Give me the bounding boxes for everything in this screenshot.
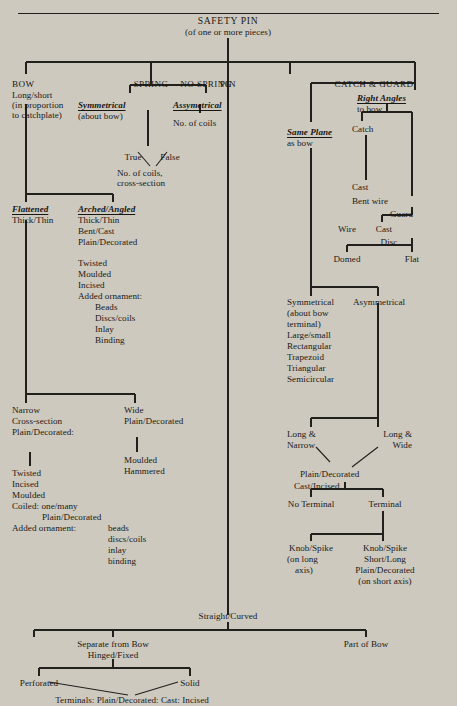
node-bow: BOW [12, 79, 34, 90]
wide-line-1: Plain/Decorated [124, 416, 183, 427]
knob-spike-left-2: (on long [287, 554, 318, 565]
node-guard: Guard [390, 209, 413, 220]
narrow-line-3: Twisted [12, 468, 41, 479]
narrow-line-1: Cross-section [12, 416, 62, 427]
node-flat: Flat [405, 254, 419, 265]
root-subtitle: (of one or more pieces) [185, 27, 271, 38]
ornament-3: Inlay [95, 324, 114, 335]
node-separate-from-bow: Separate from Bow [77, 639, 149, 650]
node-true: True [124, 152, 141, 163]
node-right-angles: Right Angles [357, 93, 406, 104]
ornament-4: Binding [95, 335, 125, 346]
wide-line-3: Hammered [124, 466, 165, 477]
wide-line-2: Moulded [124, 455, 157, 466]
root-title: SAFETY PIN [198, 16, 259, 27]
node-wide: Wide [124, 405, 144, 416]
node-terminal: Terminal [368, 499, 401, 510]
sym-line-4: Rectangular [287, 341, 331, 352]
knob-spike-right-2: Short/Long [364, 554, 406, 565]
narrow-ornament-1: beads [108, 523, 129, 534]
no-spring-coils: No. of coils [173, 118, 216, 129]
same-plane-sub: as bow [287, 138, 313, 149]
node-hinged-fixed: Hinged/Fixed [88, 650, 139, 661]
node-perforated: Perforated [20, 678, 58, 689]
node-narrow: Narrow [12, 405, 40, 416]
narrow-ornament-2: discs/coils [108, 534, 146, 545]
node-no-terminal: No Terminal [288, 499, 334, 510]
arched-line-2: Bent/Cast [78, 226, 114, 237]
flattened-sub: Thick/Thin [12, 215, 53, 226]
ornament-1: Beads [95, 302, 117, 313]
knob-spike-right-1: Knob/Spike [363, 543, 407, 554]
right-angles-sub: to bow [357, 104, 382, 115]
coils-line-1: No. of coils, [117, 168, 163, 179]
knob-spike-left-3: axis) [295, 565, 313, 576]
node-arched-angled: Arched/Angled [78, 204, 135, 215]
long-narrow-1: Long & [287, 429, 316, 440]
node-terminals: Terminals: Plain/Decorated: Cast: Incise… [55, 695, 209, 706]
node-cast-2: Cast [376, 224, 392, 235]
knob-spike-right-3: Plain/Decorated [355, 565, 414, 576]
node-solid: Solid [180, 678, 199, 689]
node-wire: Wire [338, 224, 356, 235]
catch-plain-decorated: Plain/Decorated [300, 469, 359, 480]
sym-line-1: (about bow [287, 308, 329, 319]
coils-line-2: cross-section [117, 178, 165, 189]
bow-line-2: (in proportion [12, 100, 63, 111]
node-symmetrical: Symmetrical [78, 100, 126, 111]
node-asymmetrical-catch: Asymmetrical [353, 297, 405, 308]
narrow-line-7: Plain/Decorated [42, 512, 101, 523]
arched-line-4: Twisted [78, 258, 107, 269]
node-catch-guard: CATCH & GUARD [335, 79, 414, 90]
narrow-line-2: Plain/Decorated: [12, 427, 74, 438]
node-symmetrical-catch: Symmetrical [287, 297, 334, 308]
node-bent-wire: Bent wire [352, 196, 388, 207]
arched-line-5: Moulded [78, 269, 111, 280]
narrow-line-8: Added ornament: [12, 523, 76, 534]
narrow-ornament-4: binding [108, 556, 136, 567]
node-disc: Disc [381, 237, 398, 248]
knob-spike-right-4: (on short axis) [358, 576, 411, 587]
node-catch: Catch [352, 124, 373, 135]
sym-line-7: Semicircular [287, 374, 334, 385]
bow-line-3: to catchplate) [12, 110, 62, 121]
flow-chart-page: SAFETY PIN (of one or more pieces) BOW S… [0, 0, 457, 706]
arched-line-3: Plain/Decorated [78, 237, 137, 248]
knob-spike-left-1: Knob/Spike [289, 543, 333, 554]
arched-line-6: Incised [78, 280, 105, 291]
node-spring: SPRING [134, 79, 169, 90]
arched-line-7: Added ornament: [78, 291, 142, 302]
sym-line-2: terminal) [287, 319, 321, 330]
bow-line-1: Long/short [12, 90, 52, 101]
node-same-plane: Same Plane [287, 127, 332, 138]
ornament-2: Discs/coils [95, 313, 135, 324]
narrow-line-4: Incised [12, 479, 39, 490]
node-straight-curved: Straight/Curved [199, 611, 258, 622]
symmetrical-sub: (about bow) [78, 111, 123, 122]
narrow-line-5: Moulded [12, 490, 45, 501]
narrow-line-6: Coiled: one/many [12, 501, 78, 512]
node-cast: Cast [352, 182, 368, 193]
node-false: False [160, 152, 179, 163]
node-flattened: Flattened [12, 204, 48, 215]
long-narrow-2: Narrow [287, 440, 315, 451]
long-wide-1: Long & [383, 429, 412, 440]
sym-line-5: Trapezoid [287, 352, 324, 363]
connector-lines [0, 0, 457, 706]
narrow-ornament-3: inlay [108, 545, 126, 556]
sym-line-6: Triangular [287, 363, 326, 374]
catch-cast-incised: Cast/Incised [294, 481, 340, 492]
sym-line-3: Large/small [287, 330, 331, 341]
node-pin: PIN [220, 79, 236, 90]
node-assymetrical: Assymetrical [173, 100, 222, 111]
arched-line-1: Thick/Thin [78, 215, 119, 226]
node-part-of-bow: Part of Bow [344, 639, 389, 650]
long-wide-2: Wide [392, 440, 412, 451]
node-domed: Domed [333, 254, 360, 265]
